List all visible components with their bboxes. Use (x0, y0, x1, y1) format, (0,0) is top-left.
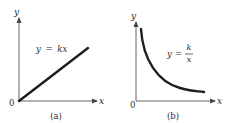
origin-label: 0 (9, 98, 14, 108)
hyperbolic-curve (141, 29, 204, 92)
x-axis-label: x (99, 96, 104, 106)
panel-a: y x 0 y = kx (a) (9, 7, 104, 121)
caption: (b) (167, 111, 179, 121)
equation-label: y = kx (35, 44, 67, 54)
origin-label: 0 (130, 100, 135, 110)
linear-curve (19, 48, 88, 101)
x-axis-label: x (217, 96, 222, 106)
svg-text:y: y (166, 49, 172, 59)
svg-text:x: x (187, 55, 192, 64)
caption: (a) (50, 111, 62, 121)
figure: y x 0 y = kx (a) y x 0 y = k x (b) (0, 0, 227, 123)
y-axis-label: y (13, 7, 20, 17)
panel-b: y x 0 y = k x (b) (130, 11, 222, 121)
svg-text:=: = (175, 49, 182, 59)
y-axis-label: y (130, 11, 137, 21)
equation-label: y = k x (166, 43, 193, 64)
svg-text:k: k (187, 43, 192, 52)
